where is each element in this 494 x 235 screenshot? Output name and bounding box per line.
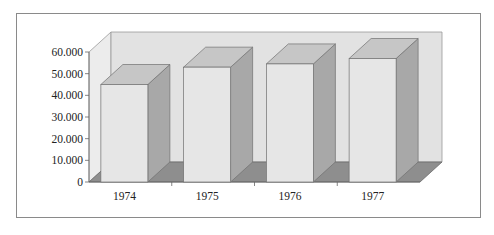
bar-1977 xyxy=(349,59,396,183)
y-tick-label: 40.000 xyxy=(51,89,83,101)
bar-1974 xyxy=(101,85,148,183)
x-tick-label: 1975 xyxy=(196,190,219,202)
x-tick-label: 1974 xyxy=(113,190,136,202)
y-tick-label: 20.000 xyxy=(51,133,83,145)
y-tick-label: 60.000 xyxy=(51,46,83,58)
x-tick-label: 1977 xyxy=(361,190,384,202)
bar-side-1974 xyxy=(148,65,170,183)
y-tick-label: 50.000 xyxy=(51,68,83,80)
y-tick-label: 30.000 xyxy=(51,111,83,123)
bar-1976 xyxy=(266,64,313,182)
bar-side-1977 xyxy=(396,39,418,183)
y-tick-label: 0 xyxy=(77,176,83,188)
bar-1975 xyxy=(184,67,231,182)
x-tick-label: 1976 xyxy=(278,190,301,202)
bar-side-1975 xyxy=(231,47,253,182)
y-tick-label: 10.000 xyxy=(51,154,83,166)
3d-column-chart: 010.00020.00030.00040.00050.00060.000197… xyxy=(0,0,494,235)
bar-side-1976 xyxy=(313,44,335,182)
